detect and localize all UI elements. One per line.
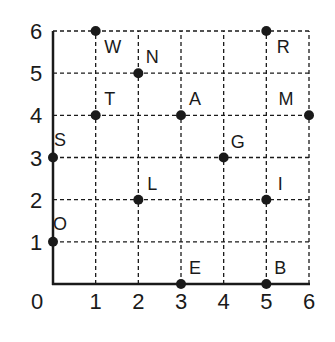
point-label: A <box>189 89 201 109</box>
point-marker <box>48 153 58 163</box>
point-marker <box>304 110 314 120</box>
point-marker <box>219 153 229 163</box>
point-label: B <box>274 258 286 278</box>
point-label: M <box>279 89 294 109</box>
point-marker <box>261 195 271 205</box>
point-marker <box>176 279 186 289</box>
point-marker <box>176 110 186 120</box>
y-tick-label: 1 <box>30 230 42 255</box>
point-label: S <box>54 130 66 150</box>
y-tick-label: 6 <box>30 19 42 44</box>
x-tick-label: 5 <box>260 289 272 314</box>
y-tick-label: 5 <box>30 61 42 86</box>
x-tick-label: 3 <box>175 289 187 314</box>
point-label: E <box>189 258 201 278</box>
y-axis-ticks: 123456 <box>30 19 42 255</box>
point-label: W <box>104 37 121 57</box>
point-label: I <box>278 174 283 194</box>
x-tick-label: 1 <box>90 289 102 314</box>
point-marker <box>48 237 58 247</box>
x-tick-label: 0 <box>31 289 43 314</box>
point-label: R <box>277 37 290 57</box>
point-label: T <box>104 89 115 109</box>
point-marker <box>133 68 143 78</box>
point-marker <box>91 110 101 120</box>
coordinate-grid: 0123456 123456 WNTSARMGLIOEB <box>0 0 335 342</box>
point-label: G <box>231 132 245 152</box>
y-tick-label: 3 <box>30 146 42 171</box>
point-label: O <box>53 214 67 234</box>
point-marker <box>261 26 271 36</box>
x-tick-label: 6 <box>303 289 315 314</box>
point-label: N <box>146 47 159 67</box>
x-axis-ticks: 0123456 <box>31 289 315 314</box>
x-tick-label: 4 <box>218 289 230 314</box>
point-label: L <box>147 174 157 194</box>
y-tick-label: 2 <box>30 188 42 213</box>
grid-lines <box>53 31 309 284</box>
x-tick-label: 2 <box>132 289 144 314</box>
point-o: O <box>48 214 67 247</box>
y-tick-label: 4 <box>30 103 42 128</box>
point-marker <box>133 195 143 205</box>
point-marker <box>91 26 101 36</box>
point-marker <box>261 279 271 289</box>
